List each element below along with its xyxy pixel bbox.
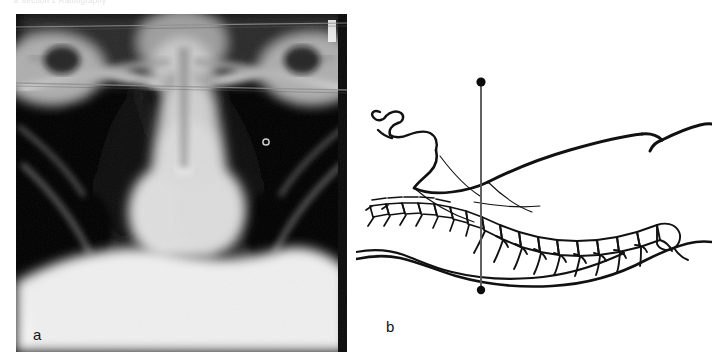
table-surface: [356, 250, 624, 278]
thoracic-vertebrae: [474, 217, 688, 276]
page-running-header: 8 Section 1 Radiography: [14, 0, 314, 7]
panel-b-label: b: [386, 318, 394, 335]
panel-a-radiograph: a: [16, 14, 347, 352]
chest-contour: [488, 124, 712, 182]
panel-b-line-drawing: b: [356, 6, 712, 363]
neck-contour: [414, 150, 488, 193]
beam-source-dot: [476, 77, 485, 86]
cervical-vertebrae: [366, 197, 484, 236]
face-profile: [372, 111, 437, 150]
panel-a-label: a: [33, 326, 41, 343]
chest-xray-image: [16, 14, 347, 352]
supine-patient-diagram: [356, 6, 712, 363]
beam-receptor-dot: [477, 286, 485, 294]
